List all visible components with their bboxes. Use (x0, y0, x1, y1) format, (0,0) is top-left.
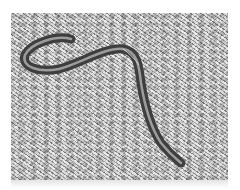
snake (11, 13, 228, 180)
snake-photo (11, 13, 228, 180)
photo-reflection (11, 180, 228, 188)
